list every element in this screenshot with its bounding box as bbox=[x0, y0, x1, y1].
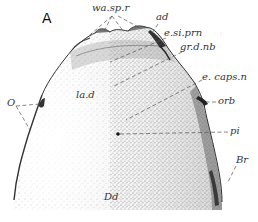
label-la-d: la.d bbox=[76, 90, 95, 100]
label-br: Br bbox=[236, 155, 248, 165]
panel-label: A bbox=[42, 11, 52, 25]
label-orb: orb bbox=[218, 96, 235, 106]
label-e-si-prn: e.si.prn bbox=[164, 28, 202, 38]
label-ad: ad bbox=[156, 12, 168, 22]
label-pi: pi bbox=[230, 126, 240, 136]
specimen-drawing bbox=[0, 0, 258, 222]
label-gr-d-nb: gr.d.nb bbox=[180, 42, 216, 52]
specimen-body bbox=[0, 0, 258, 222]
anatomical-figure: A wa.sp.r ad e.si.prn gr.d.nb la.d e. ca… bbox=[0, 0, 258, 222]
label-o: O bbox=[7, 98, 15, 108]
label-dd: Dd bbox=[104, 192, 118, 202]
label-e-caps-n: e. caps.n bbox=[202, 72, 247, 82]
label-wa-sp-r: wa.sp.r bbox=[92, 3, 129, 13]
